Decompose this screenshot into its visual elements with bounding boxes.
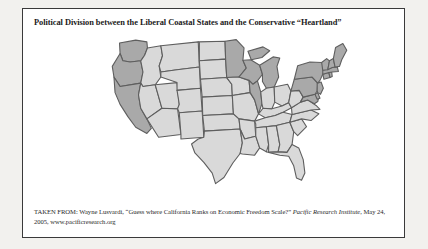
state-SD[interactable] [199, 59, 226, 79]
caption-publication: Pacific Research Institute [293, 208, 360, 215]
state-ME[interactable] [333, 44, 346, 67]
us-choropleth-map [23, 35, 404, 193]
figure-frame: Political Division between the Liberal C… [22, 8, 405, 238]
state-CO[interactable] [177, 88, 202, 113]
caption-prefix: TAKEN FROM: Wayne Lusvardi, “Guess where… [34, 208, 293, 215]
state-OK[interactable] [203, 114, 240, 131]
state-ND[interactable] [198, 41, 225, 61]
figure-source-caption: TAKEN FROM: Wayne Lusvardi, “Guess where… [34, 207, 394, 226]
state-NM[interactable] [179, 111, 204, 139]
state-KS[interactable] [202, 95, 233, 115]
figure-title: Political Division between the Liberal C… [34, 17, 396, 28]
state-NE[interactable] [200, 78, 232, 98]
state-NJ[interactable] [317, 82, 323, 94]
state-IN[interactable] [261, 87, 275, 109]
us-map-svg [81, 35, 349, 193]
